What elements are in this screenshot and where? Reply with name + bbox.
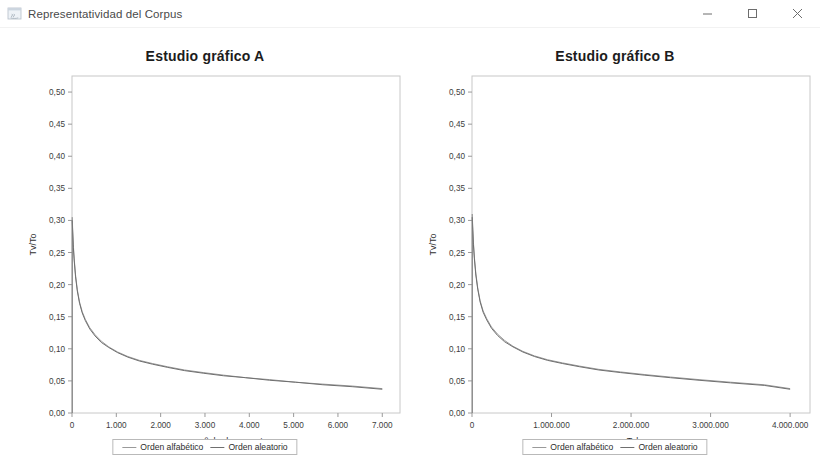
svg-text:2.000: 2.000 xyxy=(150,421,171,430)
svg-text:0,20: 0,20 xyxy=(449,281,465,290)
svg-text:0,50: 0,50 xyxy=(49,88,65,97)
svg-text:0,35: 0,35 xyxy=(49,184,65,193)
svg-text:Tv/To: Tv/To xyxy=(28,233,38,255)
chart-a-legend: Orden alfabético Orden aleatorio xyxy=(112,439,297,455)
svg-text:0,00: 0,00 xyxy=(449,409,465,418)
svg-text:0,10: 0,10 xyxy=(49,345,65,354)
svg-text:4.000.000: 4.000.000 xyxy=(772,421,809,430)
chart-b-legend: Orden alfabético Orden aleatorio xyxy=(522,439,707,455)
svg-text:4.000: 4.000 xyxy=(239,421,260,430)
svg-text:0,05: 0,05 xyxy=(49,377,65,386)
chart-panel-b: Estudio gráfico B 0,000,050,100,150,200,… xyxy=(410,28,820,460)
svg-text:3.000.000: 3.000.000 xyxy=(692,421,729,430)
legend-swatch-alfabetico xyxy=(122,447,136,448)
window-controls xyxy=(685,0,820,27)
legend-label-alfabetico: Orden alfabético xyxy=(550,442,613,452)
svg-text:0,40: 0,40 xyxy=(49,152,65,161)
svg-text:0,30: 0,30 xyxy=(449,216,465,225)
chart-a-plot: 0,000,050,100,150,200,250,300,350,400,45… xyxy=(0,28,410,460)
svg-text:Tv/To: Tv/To xyxy=(428,233,438,255)
application-window: Representatividad del Corpus xyxy=(0,0,820,460)
legend-label-aleatorio: Orden aleatorio xyxy=(228,442,287,452)
legend-label-aleatorio: Orden aleatorio xyxy=(638,442,697,452)
svg-text:0,25: 0,25 xyxy=(449,249,465,258)
maximize-button[interactable] xyxy=(730,0,775,27)
minimize-button[interactable] xyxy=(685,0,730,27)
svg-text:1.000: 1.000 xyxy=(106,421,127,430)
chart-panel-a: Estudio gráfico A 0,000,050,100,150,200,… xyxy=(0,28,410,460)
svg-text:3.000: 3.000 xyxy=(195,421,216,430)
svg-text:0,15: 0,15 xyxy=(49,313,65,322)
svg-text:5.000: 5.000 xyxy=(283,421,304,430)
svg-text:2.000.000: 2.000.000 xyxy=(613,421,650,430)
svg-text:0,00: 0,00 xyxy=(49,409,65,418)
svg-text:0,15: 0,15 xyxy=(449,313,465,322)
svg-text:0,35: 0,35 xyxy=(449,184,465,193)
svg-text:0,45: 0,45 xyxy=(449,120,465,129)
svg-text:0,05: 0,05 xyxy=(449,377,465,386)
svg-text:7.000: 7.000 xyxy=(372,421,393,430)
svg-text:0,30: 0,30 xyxy=(49,216,65,225)
svg-text:0,25: 0,25 xyxy=(49,249,65,258)
java-app-icon xyxy=(7,6,22,21)
window-title: Representatividad del Corpus xyxy=(28,8,182,20)
legend-item-aleatorio: Orden aleatorio xyxy=(210,442,287,452)
legend-item-aleatorio: Orden aleatorio xyxy=(620,442,697,452)
svg-text:0,40: 0,40 xyxy=(449,152,465,161)
svg-text:0,45: 0,45 xyxy=(49,120,65,129)
close-button[interactable] xyxy=(775,0,820,27)
svg-text:0: 0 xyxy=(70,421,75,430)
legend-swatch-alfabetico xyxy=(532,447,546,448)
svg-text:1.000.000: 1.000.000 xyxy=(533,421,570,430)
legend-swatch-aleatorio xyxy=(620,447,634,448)
svg-text:0,50: 0,50 xyxy=(449,88,465,97)
svg-text:0,10: 0,10 xyxy=(449,345,465,354)
svg-text:0,20: 0,20 xyxy=(49,281,65,290)
svg-text:6.000: 6.000 xyxy=(328,421,349,430)
title-bar-left: Representatividad del Corpus xyxy=(0,6,182,21)
legend-label-alfabetico: Orden alfabético xyxy=(140,442,203,452)
legend-item-alfabetico: Orden alfabético xyxy=(532,442,613,452)
title-bar: Representatividad del Corpus xyxy=(0,0,820,28)
chart-b-plot: 0,000,050,100,150,200,250,300,350,400,45… xyxy=(410,28,820,460)
svg-text:0: 0 xyxy=(470,421,475,430)
legend-item-alfabetico: Orden alfabético xyxy=(122,442,203,452)
charts-container: Estudio gráfico A 0,000,050,100,150,200,… xyxy=(0,28,820,460)
legend-swatch-aleatorio xyxy=(210,447,224,448)
